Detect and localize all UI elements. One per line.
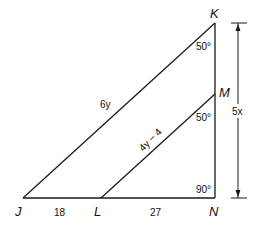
side-jk-label: 6y xyxy=(100,99,111,110)
segment-jk xyxy=(23,23,215,198)
triangle-diagram: K M N J L 50° 50° 90° 6y 4y − 4 18 27 5x xyxy=(0,0,261,226)
arrow-down-icon xyxy=(236,190,241,197)
side-lm-label: 4y − 4 xyxy=(137,126,165,154)
angle-m-label: 50° xyxy=(196,112,211,123)
side-ln-label: 27 xyxy=(150,207,162,218)
segment-lm xyxy=(101,94,215,198)
vertex-l-label: L xyxy=(94,204,101,219)
angle-n-label: 90° xyxy=(196,184,211,195)
vertex-j-label: J xyxy=(14,204,22,219)
vertex-k-label: K xyxy=(210,6,220,21)
side-jl-label: 18 xyxy=(54,207,66,218)
vertex-m-label: M xyxy=(219,85,230,100)
vertex-n-label: N xyxy=(209,204,219,219)
angle-k-label: 50° xyxy=(196,41,211,52)
side-kn-label: 5x xyxy=(232,106,243,117)
arrow-up-icon xyxy=(236,24,241,31)
